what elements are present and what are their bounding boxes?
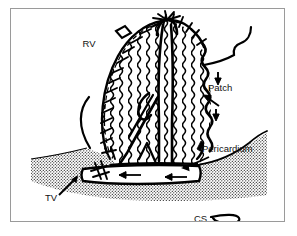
label-pericardium: Pericardium: [202, 143, 253, 154]
pointer-patch-upper: [204, 27, 251, 65]
pointer-cs: [211, 215, 239, 221]
patch-arrow-lower: [213, 109, 219, 121]
figure-frame: RV Patch Pericardium TV CS: [10, 8, 285, 222]
tv-annulus: [81, 97, 90, 148]
label-patch: Patch: [208, 82, 232, 93]
label-rv: RV: [82, 38, 96, 49]
medical-illustration-svg: RV Patch Pericardium TV CS: [11, 9, 284, 221]
label-tv: TV: [45, 192, 58, 203]
figure-page: RV Patch Pericardium TV CS: [0, 0, 297, 236]
suture-knot-square: [116, 26, 131, 38]
label-cs: CS: [194, 213, 207, 221]
